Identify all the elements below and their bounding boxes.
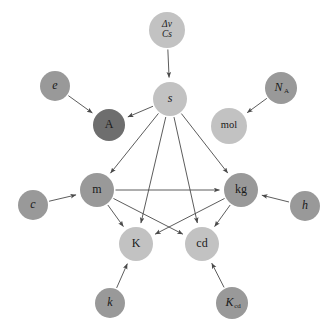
node-label-h: h xyxy=(302,198,308,212)
node-label-c: c xyxy=(30,197,36,211)
graph-canvas: ΔνCsseANAmolmkgchKcdkKcd xyxy=(0,0,331,335)
node-K_cd[interactable]: Kcd xyxy=(216,287,248,319)
node-kg[interactable]: kg xyxy=(224,173,258,207)
edge-m-to-cd xyxy=(113,198,182,234)
edge-s-to-A xyxy=(128,106,153,117)
edge-s-to-K xyxy=(141,117,166,223)
node-A[interactable]: A xyxy=(93,109,125,141)
node-label-N_A: N xyxy=(273,80,283,94)
si-units-dependency-diagram: ΔνCsseANAmolmkgchKcdkKcd xyxy=(0,0,331,335)
edge-kg-to-K xyxy=(155,198,224,234)
node-label-K_cd: K xyxy=(224,295,234,309)
node-dnu_cs[interactable]: ΔνCs xyxy=(149,12,185,48)
edge-N_A-to-mol xyxy=(247,98,267,112)
node-label-kg: kg xyxy=(235,182,247,196)
node-sublabel-K_cd: cd xyxy=(234,302,241,310)
edge-k-to-K xyxy=(117,264,128,288)
edge-m-to-K xyxy=(108,205,124,227)
node-label-s: s xyxy=(168,91,173,105)
node-mol[interactable]: mol xyxy=(211,108,247,144)
node-m[interactable]: m xyxy=(80,173,114,207)
nodes-layer: ΔνCsseANAmolmkgchKcdkKcd xyxy=(18,12,320,319)
edge-dnu_cs-to-s xyxy=(168,49,169,77)
edge-e-to-A xyxy=(68,96,92,113)
node-s[interactable]: s xyxy=(153,82,187,116)
edge-K_cd-to-cd xyxy=(212,263,224,287)
node-sublabel-N_A: A xyxy=(284,87,289,95)
node-c[interactable]: c xyxy=(18,190,48,220)
node-label-K: K xyxy=(132,236,141,250)
node-cd[interactable]: cd xyxy=(185,227,219,261)
node-label-dnu_cs-line1: Δν xyxy=(161,19,173,29)
node-label-mol: mol xyxy=(221,119,237,130)
node-label-A: A xyxy=(105,117,114,131)
node-h[interactable]: h xyxy=(290,191,320,221)
node-label-k: k xyxy=(107,295,113,309)
edge-h-to-kg xyxy=(262,195,289,202)
edge-s-to-cd xyxy=(174,117,197,223)
edge-c-to-m xyxy=(49,195,76,201)
node-label-e: e xyxy=(52,78,58,92)
node-label-m: m xyxy=(92,182,102,196)
node-label-cd: cd xyxy=(196,236,207,250)
node-N_A[interactable]: NA xyxy=(265,72,297,104)
node-e[interactable]: e xyxy=(40,71,70,101)
node-k[interactable]: k xyxy=(95,288,125,318)
node-label-dnu_cs-line2: Cs xyxy=(162,29,172,39)
edge-kg-to-cd xyxy=(215,205,231,227)
node-K[interactable]: K xyxy=(119,227,153,261)
